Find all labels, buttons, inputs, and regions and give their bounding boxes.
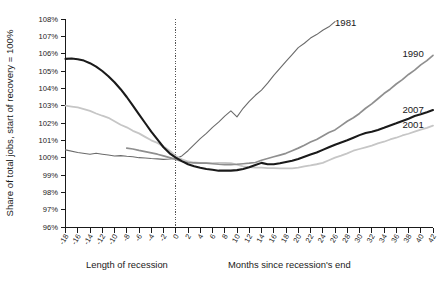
x-axis-title-right: Months since recession's end (228, 259, 351, 270)
x-tick-label: 10 (230, 233, 242, 245)
x-axis-title-left: Length of recession (86, 259, 168, 270)
y-tick-label: 104% (39, 84, 59, 93)
x-tick-label: -16 (70, 233, 83, 247)
x-tick-label: 28 (340, 233, 352, 245)
y-tick-label: 108% (39, 15, 59, 24)
x-tick-label: -18 (57, 233, 70, 247)
series-label-2007: 2007 (402, 104, 423, 115)
x-tick-label: 34 (377, 233, 389, 245)
x-tick-label: 30 (353, 233, 365, 245)
x-tick-label: 0 (171, 233, 181, 241)
series-line-2001 (66, 106, 434, 169)
y-tick-label: 102% (39, 119, 59, 128)
x-tick-label: 38 (402, 233, 414, 245)
x-axis: -18-16-14-12-10-8-6-4-202468101214161820… (57, 228, 438, 247)
y-axis: 108%107%106%105%104%103%102%101%100%99%9… (39, 15, 66, 232)
x-tick-label: 24 (316, 233, 328, 245)
x-tick-label: 42 (426, 233, 438, 245)
y-axis-title: Share of total jobs, start of recovery =… (4, 29, 15, 216)
x-tick-label: -8 (121, 233, 132, 243)
y-tick-label: 99% (43, 171, 58, 180)
x-tick-label: 22 (304, 233, 316, 245)
x-tick-label: 14 (255, 233, 267, 245)
y-tick-label: 106% (39, 49, 59, 58)
y-axis-tick-labels: 108%107%106%105%104%103%102%101%100%99%9… (39, 15, 59, 232)
chart-container: 108%107%106%105%104%103%102%101%100%99%9… (0, 0, 439, 281)
x-tick-label: 40 (414, 233, 426, 245)
x-tick-label: 4 (195, 233, 205, 241)
x-tick-label: 2 (183, 233, 193, 241)
series-line-2007 (66, 59, 434, 171)
x-axis-ticks (66, 228, 434, 233)
x-tick-label: 16 (267, 233, 279, 245)
x-tick-label: -2 (157, 233, 168, 243)
y-tick-label: 101% (39, 136, 59, 145)
series-line-1990 (127, 55, 433, 164)
series-label-2001: 2001 (402, 119, 423, 130)
y-tick-label: 100% (39, 153, 59, 162)
y-tick-label: 96% (43, 223, 58, 232)
x-tick-label: -6 (133, 233, 144, 243)
series-lines (66, 22, 434, 171)
x-tick-label: -4 (145, 233, 156, 243)
y-tick-label: 97% (43, 205, 58, 214)
x-tick-label: 26 (328, 233, 340, 245)
y-axis-ticks (61, 19, 66, 227)
x-tick-label: 6 (208, 233, 218, 241)
x-tick-label: 8 (220, 233, 230, 241)
x-tick-label: 12 (242, 233, 254, 245)
y-tick-label: 98% (43, 188, 58, 197)
x-tick-label: -10 (106, 233, 119, 247)
y-tick-label: 103% (39, 101, 59, 110)
y-tick-label: 107% (39, 32, 59, 41)
x-tick-label: -14 (82, 233, 95, 247)
x-tick-label: 18 (279, 233, 291, 245)
series-line-1981 (66, 22, 336, 160)
x-tick-label: 36 (389, 233, 401, 245)
x-tick-label: -12 (94, 233, 107, 247)
line-chart: 108%107%106%105%104%103%102%101%100%99%9… (0, 0, 439, 281)
series-label-1990: 1990 (402, 48, 423, 59)
x-axis-tick-labels: -18-16-14-12-10-8-6-4-202468101214161820… (57, 233, 438, 247)
x-tick-label: 32 (365, 233, 377, 245)
x-tick-label: 20 (291, 233, 303, 245)
series-label-1981: 1981 (335, 17, 356, 28)
y-tick-label: 105% (39, 67, 59, 76)
